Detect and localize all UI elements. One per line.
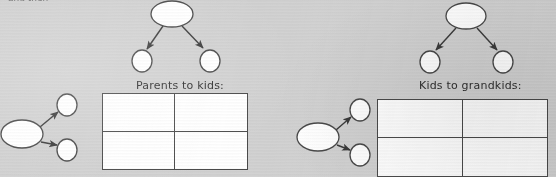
- node-child-top: [57, 94, 77, 116]
- node-parent: [1, 120, 43, 148]
- bottom-right-tree: [297, 99, 370, 166]
- kids-to-grandkids-label: Kids to grandkids:: [419, 79, 522, 92]
- edge-parent-to-child-bottom: [41, 142, 57, 145]
- node-child-left: [132, 50, 152, 72]
- node-child-bottom: [57, 139, 77, 161]
- node-parent: [297, 123, 339, 151]
- scanned-worksheet-page: and then: [0, 0, 556, 177]
- cropped-top-heading-text: and then: [8, 0, 104, 3]
- node-parent: [151, 1, 193, 27]
- edge-parent-to-child-left: [147, 26, 163, 49]
- edge-parent-to-child-top: [336, 117, 351, 130]
- edge-parent-to-child-bottom: [337, 145, 350, 150]
- node-parent: [446, 3, 486, 29]
- table-cell[interactable]: [463, 138, 548, 176]
- table-cell[interactable]: [378, 100, 463, 138]
- table-cell[interactable]: [463, 100, 548, 138]
- cropped-top-heading: and then: [8, 0, 104, 4]
- table-cell[interactable]: [103, 132, 175, 170]
- table-cell[interactable]: [175, 132, 247, 170]
- top-left-tree: [132, 1, 220, 72]
- bottom-left-tree: [1, 94, 77, 161]
- node-child-right: [493, 51, 513, 73]
- parents-to-kids-table[interactable]: [102, 93, 248, 170]
- node-child-bottom: [350, 144, 370, 166]
- top-right-tree: [420, 3, 513, 73]
- table-cell[interactable]: [103, 94, 175, 132]
- kids-to-grandkids-table[interactable]: [377, 99, 548, 177]
- node-child-top: [350, 99, 370, 121]
- node-child-right: [200, 50, 220, 72]
- node-child-left: [420, 51, 440, 73]
- table-cell[interactable]: [175, 94, 247, 132]
- edge-parent-to-child-left: [436, 28, 456, 50]
- edge-parent-to-child-top: [40, 112, 58, 127]
- parents-to-kids-label: Parents to kids:: [136, 79, 224, 92]
- edge-parent-to-child-right: [182, 26, 203, 48]
- edge-parent-to-child-right: [477, 28, 497, 50]
- table-cell[interactable]: [378, 138, 463, 176]
